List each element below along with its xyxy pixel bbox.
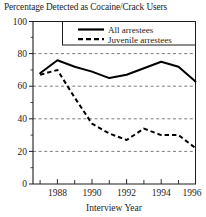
y-label-20: 20 [18,147,28,157]
y-label-40: 40 [18,114,28,124]
legend-label-juvenile-arrestees: Juvenile arrestees [108,35,172,45]
x-axis-title: Interview Year [86,203,143,213]
x-label-1990: 1990 [83,188,102,198]
plot-canvas: 0 20 40 60 80 100 1988 1990 1992 1994 [0,0,206,217]
legend: All arrestees Juvenile arrestees [63,22,196,46]
x-ticks [40,179,195,184]
legend-label-all-arrestees: All arrestees [108,25,154,35]
x-tick-labels: 1988 1990 1992 1994 1996 [48,188,202,198]
chart-figure: Percentage Detected as Cocaine/Crack Use… [0,0,206,217]
x-label-1988: 1988 [48,188,67,198]
x-label-1996: 1996 [183,188,202,198]
series-line-all-arrestees [40,60,195,81]
y-label-80: 80 [18,49,28,59]
series-line-juvenile-arrestees [40,70,195,148]
y-label-100: 100 [13,17,28,27]
y-label-60: 60 [18,81,28,91]
x-label-1994: 1994 [152,188,171,198]
y-label-0: 0 [22,179,27,189]
y-tick-labels: 0 20 40 60 80 100 [13,17,28,189]
gridlines [33,54,196,152]
x-label-1992: 1992 [117,188,136,198]
